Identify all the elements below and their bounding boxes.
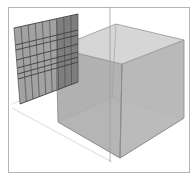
viewport[interactable] (0, 0, 194, 179)
scene-svg (0, 0, 194, 179)
grid-panel-overlap (56, 14, 78, 90)
